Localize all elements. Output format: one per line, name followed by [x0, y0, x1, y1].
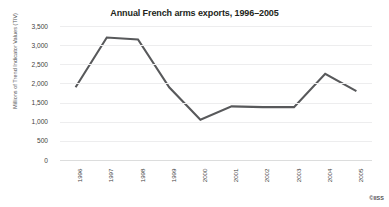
gridline: [60, 26, 372, 27]
gridline: [60, 103, 372, 104]
y-tick-label: 0: [16, 157, 48, 164]
axis-baseline: [60, 160, 372, 161]
y-tick-label: 3,500: [16, 23, 48, 30]
gridline: [60, 141, 372, 142]
x-tick-label-2003: 2003: [294, 169, 301, 195]
y-tick-label: 3,000: [16, 42, 48, 49]
x-tick-label-1998: 1998: [138, 169, 145, 195]
x-tick-label-1996: 1996: [76, 169, 83, 195]
gridline: [60, 64, 372, 65]
chart-title: Annual French arms exports, 1996–2005: [0, 8, 389, 19]
gridline: [60, 45, 372, 46]
copyright-credit: ©IISS: [369, 195, 384, 201]
x-tick-label-2005: 2005: [356, 169, 363, 195]
chart-figure: Annual French arms exports, 1996–2005 Mi…: [0, 0, 389, 207]
y-tick-label: 2,500: [16, 61, 48, 68]
y-tick-label: 1,000: [16, 118, 48, 125]
x-tick-label-1999: 1999: [169, 169, 176, 195]
x-tick-label-2000: 2000: [200, 169, 207, 195]
plot-area: 3,5003,0002,5002,0001,5001,0005000199619…: [60, 26, 372, 160]
y-tick-label: 2,000: [16, 80, 48, 87]
gridline: [60, 122, 372, 123]
x-tick-label-2004: 2004: [325, 169, 332, 195]
x-tick-label-2001: 2001: [232, 169, 239, 195]
series-polyline: [76, 37, 357, 119]
x-tick-label-1997: 1997: [107, 169, 114, 195]
y-tick-label: 1,500: [16, 99, 48, 106]
y-tick-label: 500: [16, 137, 48, 144]
x-tick-label-2002: 2002: [263, 169, 270, 195]
gridline: [60, 83, 372, 84]
